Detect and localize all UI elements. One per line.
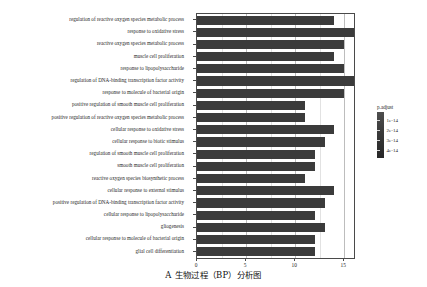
y-axis-label: regulation of DNA-binding transcription … [0,74,190,86]
bar[interactable] [197,247,315,256]
y-axis-label-text: cellular response to biotic stimulus [112,138,184,144]
y-axis-tick [193,227,196,228]
figure-caption: A 生物过程（BP）分析图 [0,268,427,280]
y-axis-label: response to oxidative stress [0,25,190,37]
y-axis-label: gliogenesis [0,220,190,232]
y-axis-label: cellular response to external stimulus [0,184,190,196]
y-axis-label-text: regulation of reactive oxygen species me… [69,16,184,22]
y-axis-label: muscle cell proliferation [0,50,190,62]
y-axis-label-text: reactive oxygen species metabolic proces… [97,40,184,46]
bar[interactable] [197,125,334,134]
bar-row [197,51,354,63]
y-axis-tick [193,56,196,57]
legend-tick-mark [377,150,380,151]
bar[interactable] [197,174,305,183]
legend-tick-label: 3e-14 [387,137,398,142]
bar[interactable] [197,28,354,37]
y-axis-tick [193,214,196,215]
bar[interactable] [197,162,315,171]
y-axis-label-text: positive regulation of reactive oxygen s… [52,114,184,120]
bar[interactable] [197,16,334,25]
y-axis-label-text: gliogenesis [161,223,184,229]
y-axis-label-text: response to lipopolysaccharide [121,65,184,71]
y-axis-label-text: glial cell differentiation [135,248,184,254]
y-axis-tick [193,80,196,81]
y-axis-tick [193,153,196,154]
bar-row [197,172,354,184]
y-axis-tick [193,202,196,203]
y-axis-tick [193,92,196,93]
bar-row [197,99,354,111]
bar[interactable] [197,186,334,195]
bar[interactable] [197,223,325,232]
x-axis-tick [343,258,344,261]
legend-tick-group: 1e-142e-143e-144e-14 [377,112,425,158]
bar-row [197,38,354,50]
legend-tick-mark [377,120,380,121]
y-axis-tick [193,129,196,130]
bar-row [197,63,354,75]
bar[interactable] [197,40,344,49]
y-axis-label: response to molecule of bacterial origin [0,86,190,98]
y-axis-tick [193,19,196,20]
bar[interactable] [197,101,305,110]
bar[interactable] [197,52,334,61]
bar-row [197,160,354,172]
y-axis-labels: regulation of reactive oxygen species me… [0,13,190,257]
y-axis-label-text: response to oxidative stress [128,28,184,34]
bar[interactable] [197,76,354,85]
legend-tick-mark [377,130,380,131]
y-axis-tick [193,166,196,167]
bar-row [197,124,354,136]
y-axis-label-text: regulation of smooth muscle cell prolife… [90,150,184,156]
y-axis-label: regulation of smooth muscle cell prolife… [0,147,190,159]
y-axis-label-text: positive regulation of smooth muscle cel… [72,101,184,107]
legend: p.adjust 1e-142e-143e-144e-14 [377,104,425,158]
y-axis-tick [193,141,196,142]
bar[interactable] [197,211,315,220]
y-axis-label-text: reactive oxygen species biosynthetic pro… [92,175,184,181]
bar[interactable] [197,137,325,146]
y-axis-label: response to lipopolysaccharide [0,62,190,74]
bar-row [197,185,354,197]
y-axis-label: regulation of reactive oxygen species me… [0,13,190,25]
y-axis-label-text: positive regulation of DNA-binding trans… [53,199,184,205]
y-axis-tick [193,105,196,106]
bar-row [197,136,354,148]
y-axis-tick [193,68,196,69]
bp-enrichment-figure: regulation of reactive oxygen species me… [0,0,427,287]
x-axis-tick [196,258,197,261]
y-axis-label-text: cellular response to molecule of bacteri… [86,235,184,241]
y-axis-label-text: smooth muscle cell proliferation [117,162,184,168]
y-axis-tick [193,117,196,118]
bar-row [197,112,354,124]
y-axis-label: cellular response to oxidative stress [0,123,190,135]
y-axis-label: smooth muscle cell proliferation [0,159,190,171]
y-axis-tick [193,251,196,252]
y-axis-label: cellular response to lipopolysaccharide [0,208,190,220]
legend-tick-label: 2e-14 [387,128,398,133]
bar[interactable] [197,198,325,207]
legend-tick-label: 4e-14 [387,147,398,152]
bar[interactable] [197,235,315,244]
bar-row [197,221,354,233]
x-axis-tick [245,258,246,261]
bar-row [197,197,354,209]
bar[interactable] [197,89,344,98]
y-axis-label-text: response to molecule of bacterial origin [102,89,184,95]
bar-row [197,148,354,160]
y-axis-tick [193,44,196,45]
y-axis-label-text: cellular response to external stimulus [107,187,184,193]
bar-row [197,14,354,26]
y-axis-label: reactive oxygen species biosynthetic pro… [0,171,190,183]
bar-row [197,87,354,99]
y-axis-tick [193,178,196,179]
bar[interactable] [197,113,305,122]
y-axis-label: positive regulation of DNA-binding trans… [0,196,190,208]
bar[interactable] [197,150,315,159]
bar[interactable] [197,64,344,73]
y-axis-label: glial cell differentiation [0,245,190,257]
y-axis-label-text: regulation of DNA-binding transcription … [70,77,184,83]
bar-row [197,233,354,245]
y-axis-tick [193,31,196,32]
